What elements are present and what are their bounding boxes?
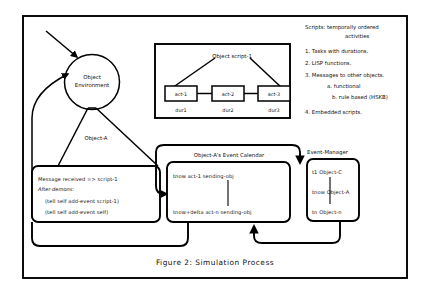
object-a-after-demons-label: After-demons: (37, 186, 74, 192)
event-manager-entry-3: tn Object-n (312, 209, 342, 216)
duration-label-dur3: dur3 (268, 107, 279, 113)
object-a-message-line: Message received => script-1 (38, 176, 118, 183)
event-manager-title: Event-Manager (307, 149, 349, 156)
activity-label-act-3: act-3 (268, 91, 280, 97)
object-script-title: Object script-1 (212, 53, 252, 60)
object-a-demon-expr-1: (tell self add-event script-1) (45, 198, 119, 205)
simulation-process-diagram: Object Environment Object-A Object scrip… (0, 0, 429, 295)
circle-label-line1: Object (83, 74, 101, 81)
activity-label-act-2: act-2 (222, 91, 234, 97)
figure-caption: Figure 2: Simulation Process (156, 258, 274, 267)
event-calendar-last-entry: tnow+delta act-n sending-obj (173, 209, 252, 216)
scripts-legend-item-1: 1. Tasks with durations. (305, 48, 369, 54)
scripts-legend-item-4: 4. Embedded scripts. (305, 109, 362, 116)
scripts-legend-item-3a: a. functional (327, 83, 361, 89)
duration-label-dur2: dur2 (222, 107, 233, 113)
figure-container: Object Environment Object-A Object scrip… (0, 0, 429, 295)
scripts-legend-heading-line2: activities (345, 33, 369, 39)
object-a-demon-expr-2: (tell self add-event self) (45, 209, 108, 215)
event-manager-entry-1: t1 Object-C (312, 169, 342, 176)
duration-label-dur1: dur1 (175, 107, 186, 113)
activity-label-act-1: act-1 (175, 91, 187, 97)
event-manager-entry-2: tnow Object-A (312, 189, 350, 196)
event-calendar-title: Object-A's Event Calendar (194, 152, 265, 159)
circle-label-line2: Environment (75, 82, 109, 88)
fan-label-object-a: Object-A (84, 135, 107, 142)
scripts-legend-item-2: 2. LISP functions. (305, 60, 352, 66)
event-calendar-first-entry: tnow act-1 sending-obj (173, 173, 234, 180)
scripts-legend-item-3: 3. Messages to other objects. (305, 72, 385, 79)
scripts-legend-heading-line1: Scripts: temporally ordered (305, 24, 379, 31)
scripts-legend-item-3b: b. rule based (HSKB) (332, 94, 388, 100)
